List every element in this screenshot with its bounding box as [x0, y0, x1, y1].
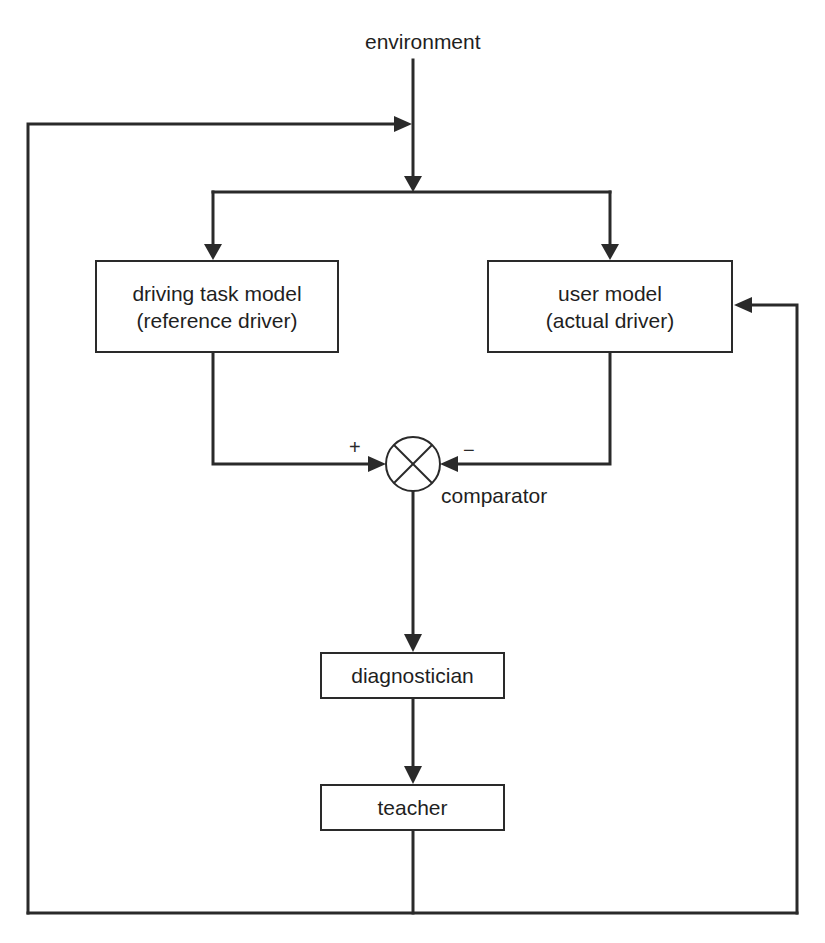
- arrowhead-down-icon: [404, 176, 422, 192]
- teacher-box: teacher: [320, 784, 505, 831]
- driving-task-model-title: driving task model: [132, 280, 301, 307]
- arrowhead-down-icon: [404, 766, 422, 784]
- teacher-label: teacher: [377, 794, 447, 821]
- diagnostician-label: diagnostician: [351, 662, 474, 689]
- diagnostician-box: diagnostician: [320, 652, 505, 699]
- plus-sign: +: [349, 437, 361, 457]
- arrowhead-right-icon: [394, 116, 412, 132]
- actual-to-comparator-line: [456, 352, 610, 464]
- user-model-subtitle: (actual driver): [546, 307, 674, 334]
- arrowhead-down-icon: [404, 634, 422, 652]
- arrowhead-left-icon: [440, 456, 458, 472]
- user-model-title: user model: [558, 280, 662, 307]
- feedback-to-user-model-line: [750, 305, 797, 913]
- driving-task-model-subtitle: (reference driver): [136, 307, 297, 334]
- arrowhead-down-icon: [204, 244, 222, 260]
- comparator-label: comparator: [441, 484, 547, 508]
- environment-label: environment: [365, 30, 481, 54]
- arrowhead-right-icon: [368, 456, 386, 472]
- driving-task-model-box: driving task model (reference driver): [95, 260, 339, 353]
- comparator-icon: [386, 437, 440, 491]
- arrowhead-left-icon: [734, 297, 752, 313]
- user-model-box: user model (actual driver): [487, 260, 733, 353]
- reference-to-comparator-line: [213, 352, 370, 464]
- arrowhead-down-icon: [601, 244, 619, 260]
- minus-sign: −: [463, 440, 475, 460]
